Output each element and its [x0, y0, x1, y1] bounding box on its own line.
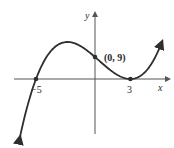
point-0-9 — [93, 55, 98, 60]
point-label-0-9: (0, 9) — [104, 52, 126, 64]
tick-label-3: 3 — [127, 84, 132, 95]
polynomial-graph: y x −5 3 (0, 9) — [0, 0, 174, 148]
point-3 — [128, 77, 133, 82]
graph-figure: y x −5 3 (0, 9) — [0, 0, 174, 148]
y-axis-label: y — [84, 10, 90, 21]
tick-label-neg5: −5 — [31, 84, 42, 95]
point-neg5 — [34, 77, 39, 82]
x-axis-label: x — [157, 82, 163, 93]
